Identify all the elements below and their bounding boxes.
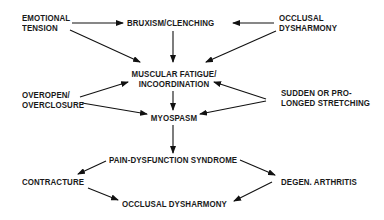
edge-degen-to-occlusal <box>234 182 272 201</box>
edge-pain-to-contracture <box>78 161 106 174</box>
node-sudden-stretching: SUDDEN OR PRO- LONGED STRETCHING <box>281 88 370 108</box>
edge-pain-to-degen <box>240 160 275 175</box>
edge-contracture-to-occlusal <box>88 188 118 200</box>
node-label: EMOTIONAL <box>22 13 70 23</box>
node-label: DYSHARMONY <box>279 23 337 33</box>
node-label: OVEROPEN/ <box>22 90 84 100</box>
arrows-layer <box>0 0 384 220</box>
node-label: LONGED STRETCHING <box>281 98 370 108</box>
node-label: MYOSPASM <box>142 113 206 123</box>
node-label: TENSION <box>22 23 70 33</box>
node-occlusal-dysharmony-bottom: OCCLUSAL DYSHARMONY <box>122 199 227 209</box>
node-label: CONTRACTURE <box>22 177 84 187</box>
node-label: INCOORDINATION <box>123 79 224 89</box>
node-label: BRUXISM/CLENCHING <box>127 18 214 28</box>
node-degen-arthritis: DEGEN. ARTHRITIS <box>281 177 357 187</box>
edge-overopen-to-myospasm <box>82 103 147 114</box>
node-label: DEGEN. ARTHRITIS <box>281 177 357 187</box>
node-myospasm: MYOSPASM <box>142 113 206 123</box>
edge-emotional-to-fatigue <box>70 30 140 62</box>
node-occlusal-dysharmony-top: OCCLUSAL DYSHARMONY <box>279 13 337 33</box>
node-muscular-fatigue: MUSCULAR FATIGUE/ INCOORDINATION <box>123 69 224 89</box>
node-label: OCCLUSAL DYSHARMONY <box>122 199 227 209</box>
node-label: OCCLUSAL <box>279 13 337 23</box>
edge-occlusal-to-fatigue <box>206 31 276 62</box>
node-label: OVERCLOSURE <box>22 100 84 110</box>
node-label: MUSCULAR FATIGUE/ <box>123 69 224 79</box>
node-label: PAIN-DYSFUNCTION SYNDROME <box>109 155 237 165</box>
node-emotional-tension: EMOTIONAL TENSION <box>22 13 70 33</box>
edge-overopen-to-fatigue <box>80 82 128 97</box>
node-bruxism-clenching: BRUXISM/CLENCHING <box>127 18 214 28</box>
edge-sudden-to-myospasm <box>200 101 266 114</box>
node-label: SUDDEN OR PRO- <box>281 88 370 98</box>
node-pain-dysfunction-syndrome: PAIN-DYSFUNCTION SYNDROME <box>109 155 237 165</box>
node-overopen-overclosure: OVEROPEN/ OVERCLOSURE <box>22 90 84 110</box>
node-contracture: CONTRACTURE <box>22 177 84 187</box>
diagram-canvas: EMOTIONAL TENSION BRUXISM/CLENCHING OCCL… <box>0 0 384 220</box>
